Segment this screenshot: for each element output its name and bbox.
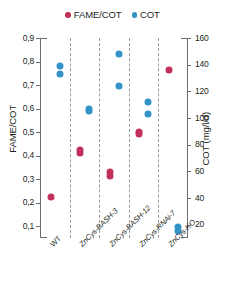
right-tick-label: 40 bbox=[195, 194, 204, 203]
data-point bbox=[145, 111, 152, 118]
left-tick-mark bbox=[36, 132, 40, 133]
left-tick-mark bbox=[36, 109, 40, 110]
right-tick-mark bbox=[187, 145, 191, 146]
left-tick-mark bbox=[36, 38, 40, 39]
right-axis-line bbox=[187, 38, 188, 238]
group-separator-line bbox=[158, 38, 159, 238]
chart-legend: FAME/COT COT bbox=[0, 10, 225, 20]
group-separator-line bbox=[99, 38, 100, 238]
left-axis-line bbox=[40, 38, 41, 238]
right-tick-mark bbox=[187, 171, 191, 172]
data-point bbox=[136, 131, 143, 138]
bottom-axis-cap-left bbox=[40, 237, 47, 238]
left-axis-title: FAME/COT bbox=[8, 94, 18, 164]
left-tick-mark bbox=[36, 156, 40, 157]
top-axis-cap-left bbox=[40, 38, 47, 39]
left-tick-label: 0,4 bbox=[23, 151, 34, 160]
left-tick-mark bbox=[36, 226, 40, 227]
right-tick-label: 80 bbox=[195, 140, 204, 149]
data-point bbox=[47, 193, 54, 200]
right-tick-mark bbox=[187, 91, 191, 92]
data-point bbox=[86, 108, 93, 115]
right-tick-label: 120 bbox=[195, 87, 209, 96]
left-tick-label: 0,8 bbox=[23, 57, 34, 66]
right-tick-mark bbox=[187, 118, 191, 119]
left-tick-mark bbox=[36, 179, 40, 180]
group-separator-line bbox=[129, 38, 130, 238]
left-tick-label: 0,9 bbox=[23, 34, 34, 43]
legend-entry-cot: COT bbox=[132, 10, 160, 20]
right-tick-label: 60 bbox=[195, 167, 204, 176]
left-tick-mark bbox=[36, 85, 40, 86]
left-tick-label: 0,5 bbox=[23, 128, 34, 137]
right-tick-mark bbox=[187, 65, 191, 66]
left-tick-label: 0,3 bbox=[23, 175, 34, 184]
right-tick-mark bbox=[187, 38, 191, 39]
right-tick-label: 140 bbox=[195, 60, 209, 69]
legend-marker-fame-cot-icon bbox=[65, 12, 71, 18]
right-tick-label: 160 bbox=[195, 34, 209, 43]
data-point bbox=[166, 67, 173, 74]
data-point bbox=[56, 71, 63, 78]
data-point bbox=[106, 172, 113, 179]
right-tick-mark bbox=[187, 198, 191, 199]
left-tick-label: 0,2 bbox=[23, 198, 34, 207]
legend-label-fame-cot: FAME/COT bbox=[74, 10, 122, 20]
legend-marker-cot-icon bbox=[132, 12, 138, 18]
data-point bbox=[115, 51, 122, 58]
left-tick-label: 0,7 bbox=[23, 81, 34, 90]
left-tick-label: 0,6 bbox=[23, 104, 34, 113]
group-separator-line bbox=[70, 38, 71, 238]
chart-figure: FAME/COT COT FAME/COT COT (mg/l/d) 0,10,… bbox=[0, 0, 225, 304]
right-tick-label: 100 bbox=[195, 114, 209, 123]
data-point bbox=[115, 83, 122, 90]
legend-label-cot: COT bbox=[140, 10, 160, 20]
data-point bbox=[145, 99, 152, 106]
left-tick-mark bbox=[36, 203, 40, 204]
data-point bbox=[77, 149, 84, 156]
data-point bbox=[56, 63, 63, 70]
legend-entry-fame-cot: FAME/COT bbox=[65, 10, 121, 20]
left-tick-label: 0,1 bbox=[23, 222, 34, 231]
left-tick-mark bbox=[36, 62, 40, 63]
